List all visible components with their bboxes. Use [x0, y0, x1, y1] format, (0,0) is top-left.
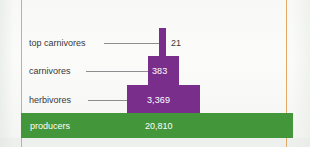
leader-line-herbivores: [88, 100, 128, 101]
value-label-herbivores: 3,369: [147, 95, 170, 105]
scan-bottom-band: [0, 138, 310, 147]
bar-top-carnivores: [159, 28, 166, 56]
leader-line-top-carnivores: [104, 43, 160, 44]
category-label-carnivores: carnivores: [29, 66, 71, 76]
category-label-top-carnivores: top carnivores: [29, 38, 86, 48]
value-label-top-carnivores: 21: [171, 38, 181, 48]
value-label-carnivores: 383: [152, 66, 167, 76]
leader-line-carnivores: [86, 71, 149, 72]
value-label-producers: 20,810: [145, 121, 173, 131]
category-label-producers: producers: [30, 121, 70, 131]
category-label-herbivores: herbivores: [29, 95, 71, 105]
pyramid-of-numbers-figure: top carnivores 21 carnivores 383 herbivo…: [0, 0, 310, 147]
